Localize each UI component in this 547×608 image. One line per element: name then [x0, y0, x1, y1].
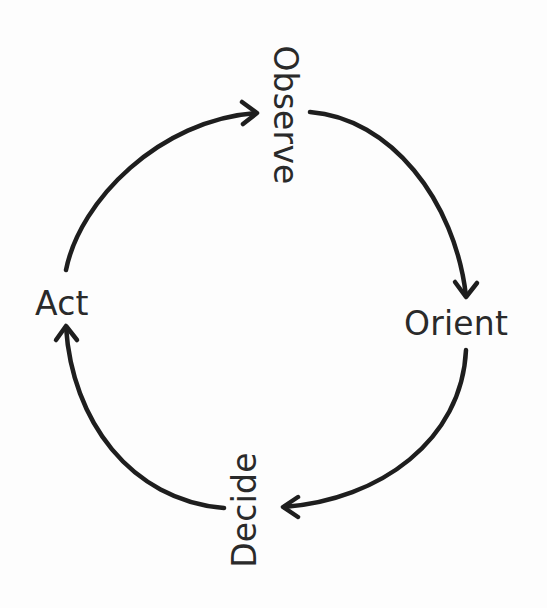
arrow-act-to-observe [66, 102, 257, 270]
node-observe: Observe [269, 45, 302, 184]
node-decide: Decide [228, 452, 261, 567]
arrow-observe-to-orient [310, 112, 477, 297]
ooda-loop-diagram: Observe Orient Decide Act [0, 0, 547, 608]
node-orient: Orient [404, 307, 508, 340]
arrow-decide-to-act [56, 326, 224, 508]
arrow-orient-to-decide [283, 350, 466, 517]
node-act: Act [35, 287, 89, 320]
